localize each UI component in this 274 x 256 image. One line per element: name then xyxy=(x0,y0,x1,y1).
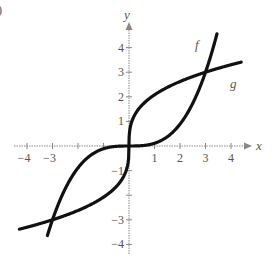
svg-text:1: 1 xyxy=(152,151,158,165)
svg-text:−1: −1 xyxy=(111,164,124,178)
curve-f xyxy=(47,34,217,236)
svg-text:−4: −4 xyxy=(111,237,124,251)
svg-text:−3: −3 xyxy=(111,213,124,227)
x-axis-label: x xyxy=(255,138,262,153)
curves xyxy=(19,34,241,236)
y-axis-arrow-icon xyxy=(126,22,133,30)
svg-text:−3: −3 xyxy=(43,151,56,165)
svg-text:−4: −4 xyxy=(18,151,31,165)
x-axis-arrow-icon xyxy=(244,143,252,150)
y-axis-label: y xyxy=(122,7,130,22)
corner-fragment: ) xyxy=(0,3,2,17)
curve-label-f: f xyxy=(195,37,201,52)
svg-text:2: 2 xyxy=(177,151,183,165)
svg-text:1: 1 xyxy=(118,114,124,128)
svg-text:2: 2 xyxy=(118,90,124,104)
curve-label-g: g xyxy=(230,76,237,91)
svg-text:4: 4 xyxy=(228,151,234,165)
svg-text:3: 3 xyxy=(203,151,209,165)
svg-text:3: 3 xyxy=(118,65,124,79)
function-graph: −4−31234−4−3−11234 x y f g ) xyxy=(0,0,274,256)
svg-text:4: 4 xyxy=(118,41,124,55)
